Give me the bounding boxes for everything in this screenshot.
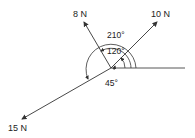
angle-120-label: 120°	[107, 46, 125, 56]
angle-210-label: 210°	[107, 30, 125, 40]
force-diagram: 8 N 10 N 15 N 210° 120° 45°	[0, 0, 195, 138]
force-15n-label: 15 N	[8, 123, 27, 133]
force-8n-label: 8 N	[73, 9, 87, 19]
force-10n-label: 10 N	[151, 9, 170, 19]
angle-arc-45	[121, 58, 125, 68]
angle-45-label: 45°	[105, 78, 118, 88]
angle-45-pointer	[114, 66, 115, 70]
force-15n-arrow	[22, 68, 111, 119]
